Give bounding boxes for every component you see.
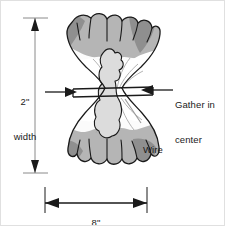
- length-dimension-label: 8" length: [53, 194, 139, 226]
- wire-callout: Wire: [143, 121, 183, 179]
- tissue-bow-diagram: 2" width 8" length Gather in center Wire: [0, 0, 225, 226]
- width-dimension-label: 2" width: [3, 73, 47, 165]
- gather-callout-line1: Gather in: [175, 99, 225, 111]
- width-value: 2": [3, 96, 47, 108]
- wire-callout-line1: Wire: [143, 144, 183, 156]
- width-unit-label: width: [3, 131, 47, 143]
- length-value: 8": [53, 217, 139, 226]
- gather-pointer-left: [45, 87, 77, 97]
